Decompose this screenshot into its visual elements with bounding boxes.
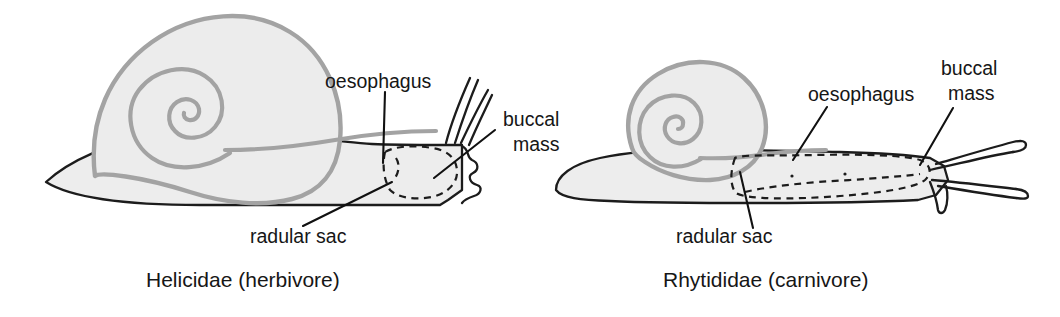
anatomy-figure: oesophagus buccal mass radular sac Helic…	[0, 0, 1060, 317]
helicidae-radular-sac-label: radular sac	[250, 225, 347, 247]
rhytididae-buccal-mass-leader	[920, 108, 953, 165]
helicidae-oesophagus-label: oesophagus	[325, 70, 432, 92]
helicidae-caption: Helicidae (herbivore)	[146, 268, 340, 291]
rhytididae-buccal-label-line2: mass	[948, 82, 995, 104]
rhytididae-oesophagus-label: oesophagus	[808, 83, 915, 105]
panel-rhytididae: oesophagus buccal mass radular sac Rhyti…	[556, 57, 1028, 291]
helicidae-buccal-label-line1: buccal	[503, 108, 559, 130]
panel-helicidae: oesophagus buccal mass radular sac Helic…	[46, 16, 560, 291]
helicidae-buccal-label-line2: mass	[513, 133, 560, 155]
rhytididae-caption: Rhytididae (carnivore)	[663, 268, 868, 291]
rhytididae-radular-sac-label: radular sac	[676, 225, 773, 247]
rhytididae-buccal-label-line1: buccal	[941, 57, 997, 79]
snail-anatomy-diagram: oesophagus buccal mass radular sac Helic…	[0, 0, 1060, 317]
rhytididae-sac-dot-1	[790, 174, 793, 177]
rhytididae-sac-dot-2	[843, 172, 846, 175]
